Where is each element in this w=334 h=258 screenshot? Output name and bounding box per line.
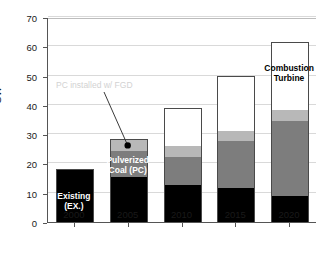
segment-2015-ct xyxy=(218,77,254,131)
plot-area xyxy=(47,18,316,223)
segment-2005-fgd xyxy=(111,140,147,152)
x-tick-mark-2020 xyxy=(289,223,290,227)
y-tick-label-10: 10 xyxy=(11,188,37,199)
bar-2010[interactable] xyxy=(164,108,202,222)
segment-2010-pc xyxy=(165,157,201,185)
segment-2010-fgd xyxy=(165,146,201,157)
bar-2015[interactable] xyxy=(217,76,255,222)
x-tick-mark-2005 xyxy=(128,223,129,227)
y-tick-label-70: 70 xyxy=(11,13,37,24)
y-tick-label-20: 20 xyxy=(11,159,37,170)
y-tick-mark-30 xyxy=(43,135,47,136)
segment-2010-ct xyxy=(165,109,201,146)
x-tick-label-2010: 2010 xyxy=(152,209,212,220)
segment-2020-fgd xyxy=(272,110,308,121)
bar-2020[interactable] xyxy=(271,42,309,222)
y-tick-mark-60 xyxy=(43,47,47,48)
y-tick-label-50: 50 xyxy=(11,71,37,82)
y-tick-label-60: 60 xyxy=(11,42,37,53)
segment-2015-fgd xyxy=(218,131,254,141)
gridline-70 xyxy=(48,16,316,17)
chart-container: GW 010203040506070 20002005201020152020 … xyxy=(0,0,334,258)
y-axis-title: GW xyxy=(0,87,3,104)
y-tick-label-0: 0 xyxy=(11,218,37,229)
segment-2015-pc xyxy=(218,141,254,188)
bar-group xyxy=(48,18,316,222)
x-tick-mark-2010 xyxy=(182,223,183,227)
y-tick-label-40: 40 xyxy=(11,100,37,111)
x-tick-label-2000: 2000 xyxy=(44,209,104,220)
y-tick-label-30: 30 xyxy=(11,130,37,141)
y-tick-mark-50 xyxy=(43,77,47,78)
segment-2020-ct xyxy=(272,43,308,110)
y-tick-mark-70 xyxy=(43,18,47,19)
y-tick-mark-0 xyxy=(43,223,47,224)
x-tick-label-2020: 2020 xyxy=(259,209,319,220)
x-tick-label-2005: 2005 xyxy=(98,209,158,220)
x-tick-label-2015: 2015 xyxy=(205,209,265,220)
y-tick-mark-10 xyxy=(43,194,47,195)
y-tick-mark-40 xyxy=(43,106,47,107)
x-tick-mark-2015 xyxy=(235,223,236,227)
y-tick-mark-20 xyxy=(43,164,47,165)
fgd-callout-text: PC installed w/ FGD xyxy=(56,80,133,90)
x-tick-mark-2000 xyxy=(74,223,75,227)
segment-2005-pc xyxy=(111,151,147,177)
segment-2020-pc xyxy=(272,121,308,196)
